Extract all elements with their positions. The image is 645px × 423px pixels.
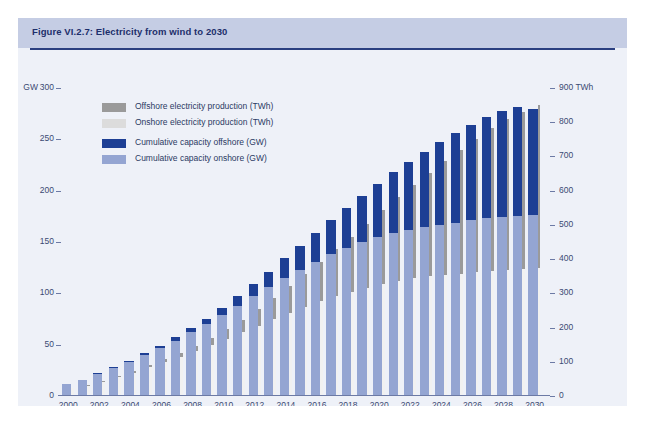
- bar-onshore-production: [118, 377, 121, 396]
- bar-onshore-production: [398, 281, 401, 396]
- bar-onshore-production: [289, 313, 292, 396]
- bar-offshore-production: [305, 274, 308, 307]
- right-axis-tick-300: 300: [559, 287, 573, 297]
- bar-offshore-capacity: [249, 284, 258, 296]
- bar-onshore-production: [336, 296, 339, 396]
- bar-onshore-capacity: [295, 270, 304, 396]
- bar-onshore-capacity: [420, 227, 429, 396]
- bar-offshore-capacity: [389, 172, 398, 233]
- bar-offshore-production: [476, 139, 479, 272]
- bar-group-2015: [295, 88, 311, 396]
- bar-onshore-production: [429, 276, 432, 396]
- bar-onshore-production: [382, 284, 385, 396]
- bar-onshore-capacity: [311, 262, 320, 396]
- bar-group-2006: [155, 88, 171, 396]
- left-axis-tickmark: [56, 293, 61, 294]
- bar-offshore-production: [180, 353, 183, 357]
- bar-offshore-production: [149, 365, 152, 367]
- bar-onshore-production: [273, 319, 276, 396]
- left-axis-tick-250: 250: [18, 133, 54, 143]
- right-axis-tick-800: 800: [559, 116, 573, 126]
- bar-offshore-production: [460, 150, 463, 274]
- right-axis-tickmark: [550, 362, 555, 363]
- bar-offshore-production: [165, 359, 168, 362]
- bar-offshore-capacity: [109, 367, 118, 368]
- right-axis-tick-600: 600: [559, 185, 573, 195]
- bar-onshore-capacity: [155, 348, 164, 396]
- left-axis-tick-150: 150: [18, 236, 54, 246]
- bar-onshore-capacity: [202, 324, 211, 396]
- left-axis-tickmark: [56, 345, 61, 346]
- right-axis-tick-900: 900 TWh: [559, 82, 593, 92]
- bar-offshore-production: [444, 161, 447, 275]
- bar-group-2009: [202, 88, 218, 396]
- bar-group-2019: [357, 88, 373, 396]
- bar-group-2017: [326, 88, 342, 396]
- bar-group-2028: [497, 88, 513, 396]
- bar-offshore-production: [227, 329, 230, 339]
- bar-group-2016: [311, 88, 327, 396]
- right-axis-tickmark: [550, 396, 555, 397]
- bar-onshore-capacity: [389, 233, 398, 396]
- bar-onshore-capacity: [93, 374, 102, 396]
- bar-group-2021: [389, 88, 405, 396]
- bar-onshore-capacity: [482, 218, 491, 396]
- bar-offshore-production: [102, 381, 105, 382]
- bar-group-2027: [482, 88, 498, 396]
- right-axis-tick-500: 500: [559, 219, 573, 229]
- left-axis-tickmark: [56, 242, 61, 243]
- bar-onshore-production: [211, 345, 214, 396]
- bar-onshore-production: [305, 307, 308, 396]
- bar-offshore-production: [134, 371, 137, 373]
- bar-onshore-capacity: [264, 287, 273, 396]
- bar-onshore-capacity: [466, 220, 475, 396]
- bar-group-2008: [186, 88, 202, 396]
- bar-offshore-capacity: [404, 162, 413, 230]
- right-axis-tickmark: [550, 328, 555, 329]
- x-axis-line: [58, 395, 550, 396]
- bar-offshore-production: [507, 119, 510, 270]
- bar-onshore-capacity: [513, 216, 522, 396]
- bar-onshore-capacity: [217, 315, 226, 396]
- bar-group-2012: [249, 88, 265, 396]
- bar-offshore-capacity: [497, 111, 506, 218]
- plot-area: [62, 88, 544, 396]
- bar-onshore-capacity: [342, 248, 351, 396]
- bar-onshore-production: [507, 270, 510, 396]
- bar-onshore-production: [460, 274, 463, 397]
- right-axis-tick-0: 0: [559, 390, 564, 400]
- bar-onshore-capacity: [451, 223, 460, 397]
- right-axis-tickmark: [550, 122, 555, 123]
- bar-group-2003: [109, 88, 125, 396]
- bar-onshore-production: [196, 351, 199, 396]
- left-axis-tick-200: 200: [18, 185, 54, 195]
- bar-group-2023: [420, 88, 436, 396]
- bar-offshore-capacity: [124, 361, 133, 362]
- bar-offshore-capacity: [435, 142, 444, 224]
- right-axis-tickmark: [550, 88, 555, 89]
- bar-group-2026: [466, 88, 482, 396]
- bar-offshore-capacity: [342, 208, 351, 248]
- bar-group-2018: [342, 88, 358, 396]
- right-axis-tick-400: 400: [559, 253, 573, 263]
- bar-offshore-capacity: [528, 109, 537, 216]
- bar-offshore-production: [522, 112, 525, 269]
- right-axis-tickmark: [550, 191, 555, 192]
- bar-offshore-capacity: [186, 328, 195, 332]
- bar-offshore-production: [320, 262, 323, 301]
- bar-onshore-production: [413, 278, 416, 396]
- bar-offshore-capacity: [264, 272, 273, 287]
- bar-offshore-production: [336, 249, 339, 296]
- bar-onshore-capacity: [233, 306, 242, 396]
- bar-offshore-capacity: [171, 337, 180, 340]
- bar-offshore-capacity: [357, 196, 366, 242]
- plot-body: Offshore electricity production (TWh)Ons…: [18, 50, 627, 406]
- bar-offshore-capacity: [140, 353, 149, 355]
- bar-onshore-capacity: [249, 296, 258, 396]
- bar-onshore-capacity: [404, 230, 413, 396]
- bar-onshore-capacity: [497, 217, 506, 396]
- bar-offshore-production: [429, 173, 432, 277]
- bar-offshore-production: [351, 237, 354, 292]
- bar-onshore-production: [444, 275, 447, 396]
- bar-group-2029: [513, 88, 529, 396]
